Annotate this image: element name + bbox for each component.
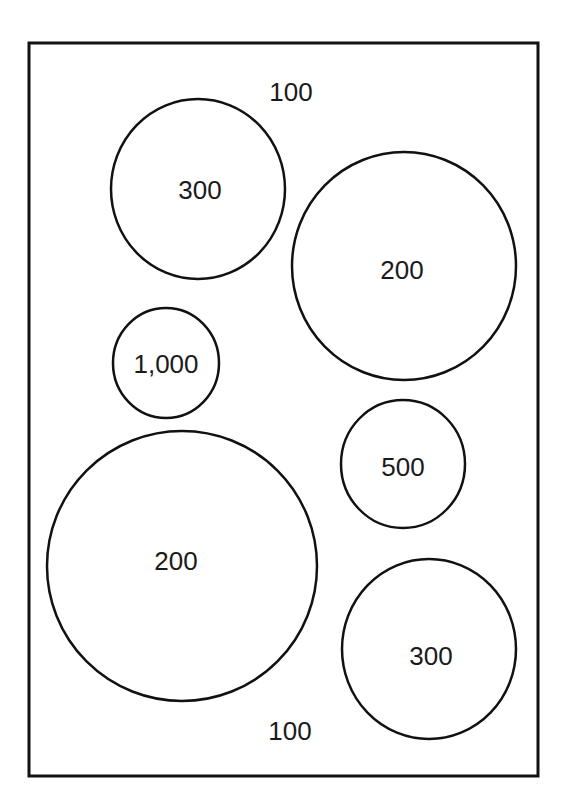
circle-200-bottom-left: 200 — [47, 431, 317, 701]
circle-label: 500 — [381, 452, 424, 482]
circle-200-top-right: 200 — [292, 152, 516, 380]
circle-label: 1,000 — [133, 349, 198, 379]
circle-label: 200 — [380, 255, 423, 285]
circle-300-bottom-right: 300 — [342, 559, 516, 739]
outer-rectangle — [29, 43, 538, 776]
outer-label-bottom: 100 — [268, 716, 311, 746]
circle-500: 500 — [341, 400, 465, 528]
circle-1000: 1,000 — [113, 308, 219, 418]
circle-label: 300 — [178, 175, 221, 205]
circle-label: 300 — [409, 641, 452, 671]
circle-diagram: 100 100 300 200 1,000 500 200 300 — [0, 0, 571, 799]
circle-300-top-left: 300 — [111, 99, 285, 279]
circle-label: 200 — [154, 546, 197, 576]
outer-label-top: 100 — [269, 77, 312, 107]
